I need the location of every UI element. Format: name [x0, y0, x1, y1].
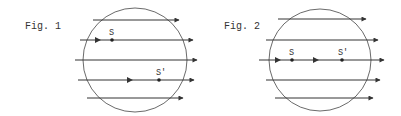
figure-2-caption: Fig. 2 — [224, 21, 260, 32]
diagram-canvas: Fig. 1 S S' Fig. 2 S S' — [0, 0, 401, 116]
figure-1-caption: Fig. 1 — [25, 21, 61, 32]
arrow-icon — [95, 37, 101, 43]
point-s-label: S — [109, 28, 114, 38]
point-s-label: S — [289, 48, 294, 58]
point-s-prime — [157, 78, 161, 82]
figure-2: Fig. 2 S S' — [224, 9, 384, 111]
arrow-icon — [127, 77, 133, 83]
point-s-prime-label: S' — [156, 68, 166, 78]
point-s-prime-label: S' — [338, 48, 348, 58]
figure-1: Fig. 1 S S' — [25, 8, 197, 112]
point-s — [110, 38, 114, 42]
arrow-icon — [275, 57, 281, 63]
point-s-prime — [340, 58, 344, 62]
arrow-icon — [313, 57, 319, 63]
point-s — [290, 58, 294, 62]
